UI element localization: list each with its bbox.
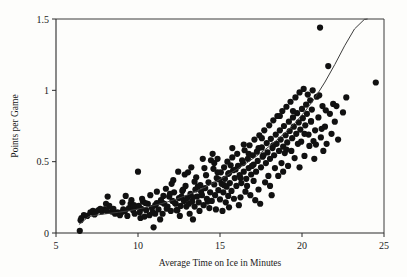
data-point [237,175,243,181]
data-point [302,122,308,128]
data-point [175,169,181,175]
data-point [219,208,225,214]
data-point [228,162,234,168]
data-point [221,164,227,170]
data-point [251,178,257,184]
x-axis-title: Average Time on Ice in Minutes [159,258,282,268]
data-point [182,171,188,177]
data-point [271,152,277,158]
data-point [257,201,263,207]
data-point [272,165,278,171]
data-point [231,196,237,202]
data-point [277,113,283,119]
data-point [283,146,289,152]
y-tick-label: 0.5 [37,156,50,167]
data-point [267,183,273,189]
data-point [323,107,329,113]
data-point [105,194,111,200]
data-point [259,135,265,141]
data-point [324,141,330,147]
data-point [227,180,233,186]
data-point [258,164,264,170]
data-point [206,205,212,211]
data-point [292,155,298,161]
data-point [223,199,229,205]
data-point [373,79,379,85]
data-point [243,176,249,182]
data-point [163,186,169,192]
data-point [201,165,207,171]
data-point [247,192,253,198]
data-point [269,192,275,198]
data-point [237,194,243,200]
data-point [183,204,189,210]
data-point [246,151,252,157]
data-point [172,200,178,206]
data-points [77,24,379,234]
data-point [332,119,338,125]
data-point [180,186,186,192]
data-point [188,164,194,170]
data-point [190,216,196,222]
data-point [298,139,304,145]
data-point [221,182,227,188]
data-point [97,206,103,212]
data-point [255,186,261,192]
data-point [169,181,175,187]
y-tick-label: 0 [44,228,49,239]
data-point [246,142,252,148]
data-point [305,92,311,98]
data-point [236,202,242,208]
data-point [239,157,245,163]
data-point [268,136,274,142]
data-point [200,156,206,162]
data-point [110,206,116,212]
data-point [318,134,324,140]
data-point [301,131,307,137]
data-point [191,179,197,185]
data-point [213,206,219,212]
data-point [343,94,349,100]
data-point [229,145,235,151]
data-point [210,151,216,157]
data-point [123,193,129,199]
data-point [137,215,143,221]
data-point [312,127,318,133]
data-point [103,201,109,207]
data-point [131,202,137,208]
data-point [217,196,223,202]
data-point [325,63,331,69]
data-point [77,228,83,234]
x-tick-label: 15 [215,240,225,251]
data-point [253,169,259,175]
data-point [284,139,290,145]
data-point [283,104,289,110]
data-point [290,108,296,114]
data-point [301,153,307,159]
data-point [335,136,341,142]
data-point [119,199,125,205]
data-point [187,211,193,217]
scatter-plot-figure: 51015202500.511.5 Average Time on Ice in… [0,0,407,277]
data-point [234,151,240,157]
data-point [214,169,220,175]
data-point [157,216,163,222]
data-point [160,193,166,199]
data-point [319,126,325,132]
data-point [313,141,319,147]
data-point [160,211,166,217]
data-point [205,199,211,205]
data-point [280,169,286,175]
data-point [203,172,209,178]
x-tick-label: 5 [54,240,59,251]
data-point [311,156,317,162]
data-point [150,209,156,215]
data-point [308,119,314,125]
data-point [278,136,284,142]
axis-ticks [52,19,384,237]
y-tick-label: 1.5 [37,14,50,25]
data-point [296,164,302,170]
data-point [196,208,202,214]
data-point [309,106,315,112]
data-point [135,169,141,175]
